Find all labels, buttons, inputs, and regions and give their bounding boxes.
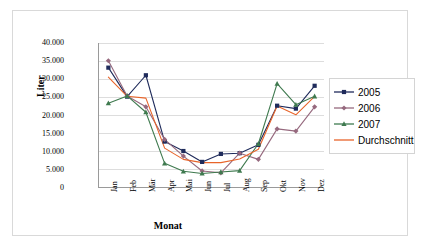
x-axis-tick-label: Apr [168, 180, 176, 192]
x-axis-tick-label: Aug [243, 178, 251, 192]
x-axis-tick-label: Sep [261, 180, 269, 192]
legend-label: 2007 [358, 119, 380, 130]
legend-item[interactable]: Durchschnitt [333, 132, 411, 148]
legend-label: 2005 [358, 87, 380, 98]
legend-swatch-icon [333, 134, 355, 146]
x-axis-tick-label: Okt [280, 180, 288, 192]
x-axis-tick-label: Jun [205, 181, 213, 192]
x-axis-tick-label: Feb [130, 180, 138, 192]
legend-item[interactable]: 2006 [333, 100, 411, 116]
x-axis-tick-label: Jan [111, 181, 119, 192]
chart-screenshot: Liter 40.00035.00030.00025.00020.00015.0… [0, 0, 425, 252]
y-axis-tick-label: 15.000 [42, 130, 64, 138]
x-axis-tick-label: Dez [318, 179, 326, 192]
y-axis-tick-label: 40.000 [42, 39, 64, 47]
legend-swatch-icon [333, 118, 355, 130]
legend-swatch-icon [333, 102, 355, 114]
chart-legend: 200520062007Durchschnitt [329, 78, 415, 154]
x-axis-tick-label: Mär [149, 179, 157, 192]
plot-area [98, 43, 323, 188]
y-axis-tick-label: 5.000 [46, 166, 64, 174]
y-axis-tick-label: 20.000 [42, 112, 64, 120]
y-axis-tick-label: 0 [60, 184, 64, 192]
x-axis-tick-label: Jul [224, 183, 232, 192]
x-axis-title: Monat [13, 220, 323, 231]
y-axis-tick-label: 30.000 [42, 75, 64, 83]
y-axis-tick-label: 35.000 [42, 57, 64, 65]
legend-item[interactable]: 2007 [333, 116, 411, 132]
y-axis-tick-label: 10.000 [42, 148, 64, 156]
legend-swatch-icon [333, 86, 355, 98]
legend-label: 2006 [358, 103, 380, 114]
chart-frame: Liter 40.00035.00030.00025.00020.00015.0… [12, 10, 408, 236]
x-axis-tick-label: Nov [299, 178, 307, 192]
plot-svg [99, 43, 324, 188]
legend-item[interactable]: 2005 [333, 84, 411, 100]
legend-label: Durchschnitt [358, 135, 414, 146]
x-axis-tick-label: Mai [186, 179, 194, 192]
y-axis-tick-label: 25.000 [42, 93, 64, 101]
